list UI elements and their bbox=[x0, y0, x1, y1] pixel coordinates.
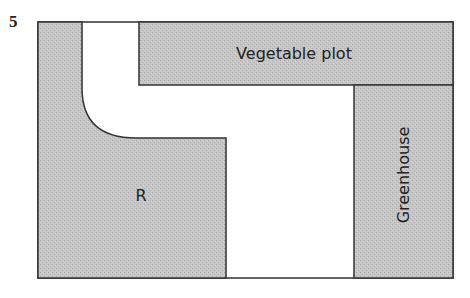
greenhouse-label: Greenhouse bbox=[394, 127, 413, 224]
vegetable-plot-label: Vegetable plot bbox=[236, 44, 352, 63]
garden-plan-diagram: Vegetable plot R Greenhouse bbox=[0, 0, 470, 298]
region-r-label: R bbox=[135, 186, 146, 205]
